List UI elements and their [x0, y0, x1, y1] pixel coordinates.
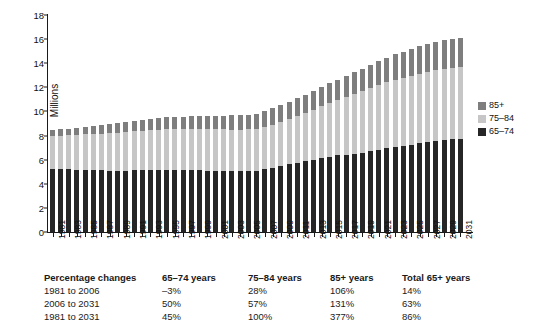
- legend-item[interactable]: 65–74: [478, 126, 514, 137]
- table-row: 1981 to 2006–3%28%106%14%: [44, 285, 492, 298]
- bar-segment-75-84: [213, 129, 218, 170]
- bar-segment-75-84: [83, 134, 88, 169]
- legend-item[interactable]: 75–84: [478, 113, 514, 124]
- y-tick-label: 10: [33, 106, 44, 117]
- bar-segment-75-84: [376, 85, 381, 150]
- x-tick-label: 1999: [203, 220, 213, 239]
- bar-segment-85+: [409, 49, 414, 76]
- x-tick-mark: [403, 233, 404, 237]
- bar-segment-65-74: [450, 139, 455, 232]
- table-cell: 377%: [330, 311, 402, 324]
- x-tick-label: 2011: [301, 221, 311, 239]
- x-tick-mark: [159, 233, 160, 237]
- table-row: 2006 to 203150%57%131%63%: [44, 298, 492, 311]
- table-header-row: Percentage changes65–74 years75–84 years…: [44, 272, 492, 285]
- x-tick-mark: [387, 233, 388, 237]
- bar-segment-85+: [287, 102, 292, 119]
- x-tick-mark: [452, 233, 453, 237]
- x-tick-mark: [420, 233, 421, 237]
- bar-segment-65-74: [433, 141, 438, 232]
- bar-segment-65-74: [311, 160, 316, 232]
- table-header-cell: 75–84 years: [248, 272, 330, 285]
- bar-segment-85+: [99, 125, 104, 134]
- bar-segment-85+: [123, 122, 128, 132]
- y-tick-label: 12: [33, 82, 44, 93]
- bar-segment-65-74: [409, 145, 414, 232]
- bar-segment-75-84: [58, 136, 63, 169]
- bar-segment-85+: [107, 124, 112, 133]
- table-header-cell: 85+ years: [330, 272, 402, 285]
- bar-segment-85+: [91, 126, 96, 134]
- bar-segment-75-84: [205, 129, 210, 170]
- bar-segment-65-74: [66, 169, 71, 232]
- bar-segment-85+: [50, 130, 55, 136]
- legend-item[interactable]: 85+: [478, 100, 514, 111]
- bar-segment-75-84: [270, 125, 275, 168]
- bar-segment-85+: [327, 83, 332, 103]
- bar-segment-65-74: [442, 140, 447, 232]
- legend-label: 65–74: [489, 127, 514, 136]
- x-tick-mark: [256, 233, 257, 237]
- x-tick-mark: [330, 233, 331, 237]
- x-tick-mark: [265, 233, 266, 237]
- x-tick-mark: [101, 233, 102, 237]
- table: Percentage changes65–74 years75–84 years…: [44, 272, 492, 324]
- bar-segment-85+: [335, 80, 340, 100]
- bar-segment-75-84: [181, 129, 186, 170]
- x-tick-mark: [305, 233, 306, 237]
- bar-segment-75-84: [368, 88, 373, 151]
- bar-segment-65-74: [425, 142, 430, 232]
- x-tick-mark: [395, 233, 396, 237]
- bar-segment-85+: [221, 116, 226, 130]
- bar-segment-85+: [246, 115, 251, 130]
- bar-segment-75-84: [303, 113, 308, 161]
- x-tick-mark: [371, 233, 372, 237]
- y-tick-label: 14: [33, 58, 44, 69]
- legend-label: 75–84: [489, 114, 514, 123]
- bar-segment-85+: [311, 91, 316, 110]
- bar-segment-85+: [319, 87, 324, 106]
- x-tick-mark: [85, 233, 86, 237]
- table-row: 1981 to 203145%100%377%86%: [44, 311, 492, 324]
- x-tick-label: 1989: [122, 220, 132, 239]
- table-cell: 131%: [330, 298, 402, 311]
- bar-segment-85+: [115, 123, 120, 133]
- x-tick-mark: [61, 233, 62, 237]
- bar-segment-65-74: [360, 153, 365, 232]
- bar-segment-65-74: [50, 169, 55, 232]
- bar-segment-75-84: [344, 97, 349, 155]
- x-tick-label: 2001: [220, 220, 230, 239]
- x-tick-mark: [379, 233, 380, 237]
- bar-segment-85+: [66, 129, 71, 136]
- x-tick-mark: [183, 233, 184, 237]
- x-tick-mark: [110, 233, 111, 237]
- table-header-cell: Percentage changes: [44, 272, 162, 285]
- bar-segment-75-84: [409, 76, 414, 145]
- bar-segment-75-84: [140, 131, 145, 170]
- x-tick-label: 2023: [399, 220, 409, 239]
- bar-segment-85+: [433, 42, 438, 71]
- bar-segment-75-84: [295, 116, 300, 163]
- bar-segment-85+: [262, 111, 267, 127]
- bar-segment-65-74: [181, 170, 186, 232]
- bar-segment-85+: [442, 40, 447, 69]
- bar-segment-65-74: [393, 147, 398, 232]
- bar-segment-75-84: [238, 130, 243, 172]
- bar-segment-85+: [270, 108, 275, 124]
- x-tick-mark: [232, 233, 233, 237]
- table-cell: 1981 to 2006: [44, 285, 162, 298]
- bar-segment-75-84: [197, 129, 202, 170]
- bar-segment-75-84: [384, 82, 389, 148]
- bar-segment-75-84: [360, 91, 365, 152]
- bar-segment-75-84: [327, 103, 332, 157]
- bar-segment-75-84: [189, 129, 194, 170]
- bar-segment-85+: [189, 116, 194, 129]
- bar-segment-85+: [360, 69, 365, 91]
- bar-segment-85+: [140, 120, 145, 131]
- bar-segment-75-84: [246, 129, 251, 171]
- bar-segment-75-84: [442, 69, 447, 140]
- x-tick-mark: [69, 233, 70, 237]
- x-tick-mark: [199, 233, 200, 237]
- bar-segment-85+: [197, 116, 202, 129]
- bar-segment-65-74: [327, 157, 332, 232]
